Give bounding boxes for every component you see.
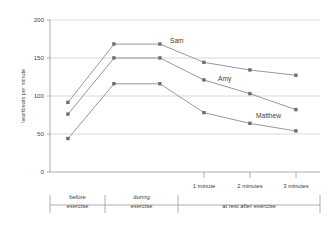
- data-point-marker: [158, 56, 161, 59]
- y-tick-marks: [47, 20, 50, 172]
- y-tick-label-200: 200: [34, 16, 45, 23]
- phase-band-label-at-rest: at rest after exercise: [222, 203, 276, 209]
- data-point-marker: [112, 56, 115, 59]
- y-tick-label-150: 150: [34, 54, 45, 61]
- data-point-marker: [202, 111, 205, 114]
- data-point-marker: [66, 112, 69, 115]
- data-point-marker: [248, 92, 251, 95]
- heart-rate-line-chart: 200 150 100 50 0 heartbeats per minute 1…: [0, 0, 336, 227]
- series-line-amy: [66, 56, 297, 116]
- data-point-marker: [294, 129, 297, 132]
- data-point-marker: [112, 42, 115, 45]
- x-tick-label-3-minutes: 3 minutes: [283, 183, 309, 189]
- y-tick-label-50: 50: [37, 130, 44, 137]
- phase-band-label-during-line2: exercise: [131, 203, 154, 209]
- series-line-sam: [66, 42, 297, 104]
- data-point-marker: [158, 42, 161, 45]
- data-point-marker: [294, 74, 297, 77]
- data-point-marker: [248, 68, 251, 71]
- x-tick-marks: [204, 172, 296, 178]
- data-point-marker: [202, 78, 205, 81]
- series-label-matthew: Matthew: [256, 112, 281, 119]
- series-label-amy: Amy: [218, 75, 232, 83]
- data-point-marker: [202, 61, 205, 64]
- y-tick-label-100: 100: [34, 92, 45, 99]
- y-tick-label-0: 0: [41, 168, 45, 175]
- y-tick-labels: 200 150 100 50 0: [34, 16, 45, 175]
- data-point-marker: [158, 82, 161, 85]
- x-tick-label-1-minute: 1 minute: [193, 183, 216, 189]
- phase-band-label-before-line1: before: [69, 194, 86, 200]
- data-point-marker: [248, 122, 251, 125]
- data-point-marker: [112, 82, 115, 85]
- phase-bands: [50, 195, 320, 213]
- data-point-marker: [66, 101, 69, 104]
- data-point-marker: [294, 108, 297, 111]
- rest-tick-labels: 1 minute 2 minutes 3 minutes: [193, 183, 309, 189]
- phase-band-label-during-line1: during: [133, 194, 149, 200]
- x-tick-label-2-minutes: 2 minutes: [237, 183, 263, 189]
- series-label-sam: Sam: [170, 37, 184, 44]
- y-axis-title: heartbeats per minute: [20, 69, 26, 123]
- data-point-marker: [66, 137, 69, 140]
- chart-page: 200 150 100 50 0 heartbeats per minute 1…: [0, 0, 336, 227]
- phase-band-label-before-line2: exercise: [67, 203, 90, 209]
